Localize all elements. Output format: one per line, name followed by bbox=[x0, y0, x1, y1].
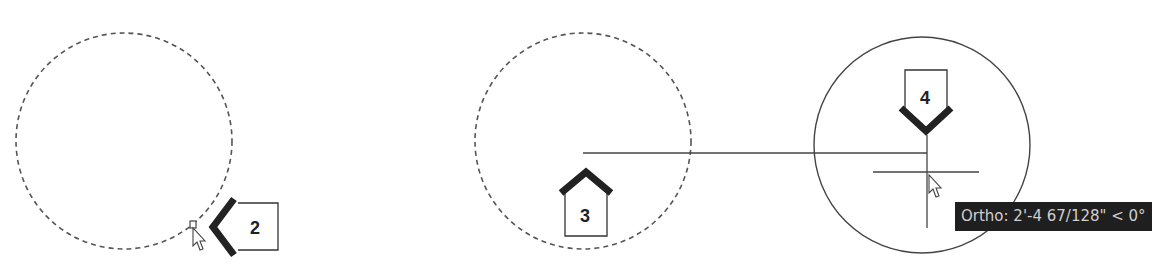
callout-4: 4 bbox=[901, 70, 951, 131]
callout-2: 2 bbox=[213, 199, 278, 255]
dashed-circle-original bbox=[16, 33, 232, 249]
ortho-tooltip: Ortho: 2'-4 67/128" < 0° bbox=[955, 202, 1152, 231]
callout-3: 3 bbox=[561, 172, 611, 236]
svg-text:2: 2 bbox=[250, 218, 260, 238]
svg-text:3: 3 bbox=[580, 206, 590, 226]
cad-drawing-canvas: 2 3 4 bbox=[0, 0, 1172, 277]
cursor-arrow-icon bbox=[193, 228, 205, 250]
svg-text:4: 4 bbox=[920, 88, 930, 108]
grip-point[interactable] bbox=[190, 221, 196, 228]
cursor-arrow-icon bbox=[929, 175, 941, 197]
